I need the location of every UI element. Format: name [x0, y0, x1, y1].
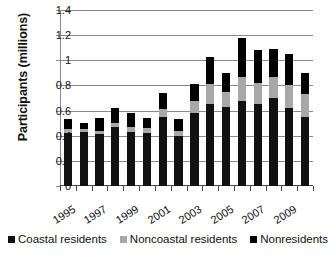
x-tick-label-2003: 2003 — [177, 203, 204, 226]
bar-segment-noncoastal-residents — [301, 94, 309, 117]
x-tick-label-2007: 2007 — [240, 203, 267, 226]
bar-segment-nonresidents — [64, 119, 72, 129]
bar-segment-nonresidents — [238, 38, 246, 77]
x-tick-mark — [250, 186, 251, 191]
y-tick-label: 0.6 — [37, 105, 71, 117]
bar-segment-noncoastal-residents — [159, 109, 167, 117]
x-tick-label-2009: 2009 — [272, 203, 299, 226]
bar-1998 — [127, 113, 135, 186]
legend-label: Nonresidents — [260, 234, 328, 246]
bar-segment-nonresidents — [301, 73, 309, 94]
legend-item-noncoastal-residents: Noncoastal residents — [120, 234, 237, 246]
bar-segment-nonresidents — [127, 113, 135, 127]
bar-2003 — [206, 57, 214, 186]
bar-segment-nonresidents — [174, 119, 182, 130]
bar-2000 — [159, 93, 167, 186]
legend-label: Noncoastal residents — [130, 234, 237, 246]
bar-segment-coastal-residents — [127, 132, 135, 186]
y-tick-label: 1.2 — [37, 29, 71, 41]
x-tick-mark — [218, 186, 219, 191]
y-tick-label: 0.2 — [37, 155, 71, 167]
bar-segment-coastal-residents — [254, 104, 262, 186]
chart-legend: Coastal residentsNoncoastal residentsNon… — [0, 234, 336, 246]
bar-segment-nonresidents — [95, 118, 103, 131]
y-tick-label: 1.4 — [37, 4, 71, 16]
noncoastal-swatch — [120, 236, 127, 243]
bar-1995 — [80, 123, 88, 186]
x-tick-mark — [281, 186, 282, 191]
x-tick-label-1997: 1997 — [82, 203, 109, 226]
bar-2004 — [222, 73, 230, 186]
bar-segment-nonresidents — [206, 57, 214, 85]
y-tick-label: 0.4 — [37, 130, 71, 142]
bar-segment-noncoastal-residents — [285, 85, 293, 108]
x-tick-mark — [60, 186, 61, 191]
bar-segment-coastal-residents — [269, 98, 277, 186]
bar-segment-nonresidents — [143, 118, 151, 128]
x-tick-mark — [202, 186, 203, 191]
y-tick-label: 1 — [37, 54, 71, 66]
nonresidents-swatch — [250, 236, 257, 243]
bar-2001 — [174, 119, 182, 186]
x-tick-mark — [234, 186, 235, 191]
bar-series-container — [60, 10, 313, 186]
bar-segment-noncoastal-residents — [206, 84, 214, 104]
bar-segment-coastal-residents — [301, 117, 309, 186]
bar-segment-noncoastal-residents — [254, 83, 262, 104]
x-tick-mark — [107, 186, 108, 191]
bar-2007 — [269, 49, 277, 186]
bar-segment-nonresidents — [190, 84, 198, 100]
x-tick-mark — [171, 186, 172, 191]
bar-2008 — [285, 54, 293, 186]
x-tick-mark — [313, 186, 314, 191]
bar-segment-coastal-residents — [206, 104, 214, 186]
x-tick-mark — [266, 186, 267, 191]
bar-segment-coastal-residents — [238, 101, 246, 186]
bar-segment-noncoastal-residents — [238, 77, 246, 101]
bar-segment-coastal-residents — [222, 107, 230, 186]
x-tick-mark — [187, 186, 188, 191]
bar-2005 — [238, 38, 246, 186]
bar-segment-coastal-residents — [159, 117, 167, 186]
bar-segment-noncoastal-residents — [269, 77, 277, 98]
x-tick-mark — [92, 186, 93, 191]
bar-2006 — [254, 50, 262, 186]
coastal-swatch — [8, 236, 15, 243]
bar-segment-nonresidents — [285, 54, 293, 85]
bar-1999 — [143, 118, 151, 186]
bar-segment-nonresidents — [159, 93, 167, 109]
plot-area — [60, 10, 313, 186]
bar-segment-noncoastal-residents — [190, 101, 198, 114]
bar-segment-coastal-residents — [143, 133, 151, 186]
bar-segment-nonresidents — [111, 108, 119, 123]
y-axis-title: Participants (millions) — [16, 0, 30, 162]
bar-segment-coastal-residents — [190, 113, 198, 186]
bar-segment-coastal-residents — [111, 127, 119, 186]
x-tick-mark — [297, 186, 298, 191]
x-tick-label-1995: 1995 — [50, 203, 77, 226]
x-tick-mark — [155, 186, 156, 191]
bar-segment-coastal-residents — [174, 136, 182, 186]
y-tick-label: 0 — [37, 180, 71, 192]
bar-segment-coastal-residents — [80, 132, 88, 186]
x-tick-mark — [139, 186, 140, 191]
x-tick-label-2005: 2005 — [208, 203, 235, 226]
bar-2002 — [190, 84, 198, 186]
x-tick-label-2001: 2001 — [145, 203, 172, 226]
x-tick-mark — [123, 186, 124, 191]
bar-segment-nonresidents — [269, 49, 277, 77]
bar-2009 — [301, 73, 309, 186]
bar-segment-coastal-residents — [285, 108, 293, 186]
legend-label: Coastal residents — [18, 234, 107, 246]
x-tick-label-1999: 1999 — [113, 203, 140, 226]
legend-item-coastal-residents: Coastal residents — [8, 234, 107, 246]
stacked-bar-chart: Participants (millions) 00.20.40.60.811.… — [0, 0, 336, 260]
legend-item-nonresidents: Nonresidents — [250, 234, 328, 246]
bar-segment-nonresidents — [222, 73, 230, 92]
bar-segment-noncoastal-residents — [222, 92, 230, 107]
x-tick-mark — [76, 186, 77, 191]
bar-segment-nonresidents — [254, 50, 262, 83]
bar-1997 — [111, 108, 119, 186]
bar-1996 — [95, 118, 103, 186]
y-tick-label: 0.8 — [37, 79, 71, 91]
